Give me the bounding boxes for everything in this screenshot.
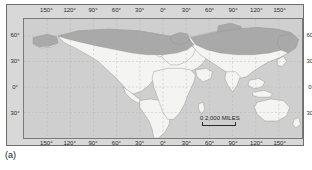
lon-label: 90° (88, 7, 97, 14)
map-plate: 0 2,000 MILES 0 2,000 KILOMETERS (23, 18, 303, 139)
lon-label: 30° (182, 140, 191, 147)
figure-caption: (a) (5, 150, 16, 160)
lon-label: 0° (160, 7, 166, 14)
lon-label: 90° (88, 140, 97, 147)
lon-label: 0° (160, 140, 166, 147)
lat-label: 60° (306, 32, 312, 39)
lon-label: 90° (228, 7, 237, 14)
lon-label: 60° (205, 140, 214, 147)
world-map-figure: 150°120°90°60°30°0°30°60°90°120°150° 150… (0, 0, 312, 170)
lon-label: 150° (273, 140, 285, 147)
lat-label: 60° (10, 32, 19, 39)
lat-label: 0° (12, 84, 18, 91)
world-map-graphic (24, 19, 302, 138)
latitude-labels-right: 60°30°0°30° (303, 18, 312, 139)
lat-label: 30° (10, 58, 19, 65)
lon-label: 120° (63, 7, 75, 14)
lon-label: 150° (40, 7, 52, 14)
lat-label: 30° (306, 110, 312, 117)
longitude-labels-bottom: 150°120°90°60°30°0°30°60°90°120°150° (23, 140, 303, 150)
lon-label: 60° (112, 140, 121, 147)
lon-label: 60° (112, 7, 121, 14)
lon-label: 120° (250, 7, 262, 14)
lon-label: 120° (63, 140, 75, 147)
lon-label: 30° (135, 7, 144, 14)
lon-label: 30° (182, 7, 191, 14)
lat-label: 30° (306, 58, 312, 65)
lon-label: 60° (205, 7, 214, 14)
lon-label: 150° (273, 7, 285, 14)
longitude-labels-top: 150°120°90°60°30°0°30°60°90°120°150° (23, 7, 303, 17)
map-panel: 150°120°90°60°30°0°30°60°90°120°150° 150… (6, 4, 304, 146)
lat-label: 0° (308, 84, 312, 91)
lat-label: 30° (10, 110, 19, 117)
lon-label: 30° (135, 140, 144, 147)
lon-label: 90° (228, 140, 237, 147)
lon-label: 150° (40, 140, 52, 147)
lon-label: 120° (250, 140, 262, 147)
latitude-labels-left: 60°30°0°30° (7, 18, 23, 139)
map-neatline: 0 2,000 MILES 0 2,000 KILOMETERS (23, 18, 303, 139)
